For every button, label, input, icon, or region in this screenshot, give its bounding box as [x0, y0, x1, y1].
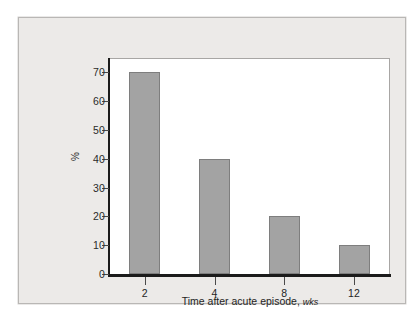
- x-tick-mark: [354, 277, 355, 285]
- y-tick-label: 70: [93, 66, 105, 78]
- x-axis-title: Time after acute episode, wks: [109, 295, 391, 307]
- y-tick-label: 30: [93, 182, 105, 194]
- y-tick-label: 60: [93, 95, 105, 107]
- y-axis-title: %: [70, 152, 81, 161]
- bar-series: [110, 58, 389, 274]
- bar: [199, 159, 230, 274]
- bar: [129, 72, 160, 274]
- x-tick-mark: [215, 277, 216, 285]
- y-tick-label: 40: [93, 153, 105, 165]
- y-tick-label: 20: [93, 210, 105, 222]
- y-tick-label: 50: [93, 124, 105, 136]
- x-axis-title-unit: wks: [303, 297, 319, 307]
- y-tick-label: 0: [99, 268, 105, 280]
- bar: [269, 216, 300, 274]
- bar: [339, 245, 370, 274]
- figure-panel: 010203040506070 % 24812 Time after acute…: [18, 17, 406, 304]
- x-tick-mark: [284, 277, 285, 285]
- x-tick-mark: [145, 277, 146, 285]
- y-tick-label: 10: [93, 239, 105, 251]
- x-axis-title-main: Time after acute episode,: [182, 295, 303, 307]
